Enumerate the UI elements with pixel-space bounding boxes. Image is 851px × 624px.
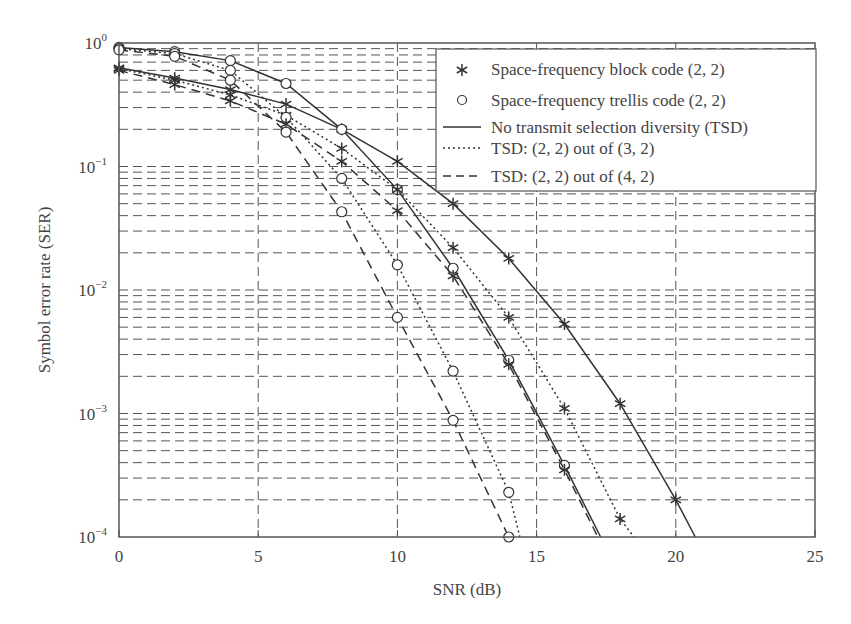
circle-marker-icon: [225, 56, 235, 66]
legend-label: TSD: (2, 2) out of (3, 2): [491, 139, 654, 158]
legend-label: Space-frequency block code (2, 2): [491, 60, 725, 79]
y-tick-label: 10−2: [78, 278, 107, 300]
circle-marker-icon: [448, 415, 458, 425]
legend-label: Space-frequency trellis code (2, 2): [491, 91, 726, 110]
y-axis-label: Symbol error rate (SER): [35, 207, 54, 374]
x-tick-label: 20: [667, 547, 684, 566]
circle-marker-icon: [392, 312, 402, 322]
x-axis-label: SNR (dB): [433, 580, 501, 599]
x-tick-label: 15: [528, 547, 545, 566]
circle-marker-icon: [337, 124, 347, 134]
legend-label: No transmit selection diversity (TSD): [491, 118, 748, 137]
legend-item-sftc: Space-frequency trellis code (2, 2): [458, 91, 726, 110]
circle-marker-icon: [337, 173, 347, 183]
ser-vs-snr-chart: 0510152025 10010−110−210−310−4 SNR (dB) …: [0, 0, 851, 624]
y-axis-ticks: 10010−110−210−310−4: [78, 31, 107, 547]
circle-marker-icon: [225, 65, 235, 75]
x-axis-ticks: 0510152025: [115, 530, 824, 566]
circle-marker-icon: [504, 487, 514, 497]
x-tick-label: 25: [807, 547, 824, 566]
circle-marker-icon: [281, 78, 291, 88]
x-tick-label: 5: [254, 547, 263, 566]
circle-marker-icon: [225, 75, 235, 85]
y-tick-label: 10−1: [78, 155, 107, 177]
y-tick-label: 10−3: [78, 402, 107, 424]
legend-item-sfbc: Space-frequency block code (2, 2): [457, 60, 725, 79]
legend-label: TSD: (2, 2) out of (4, 2): [491, 167, 654, 186]
circle-marker-icon: [337, 207, 347, 217]
legend: Space-frequency block code (2, 2) Space-…: [436, 49, 816, 191]
circle-marker-icon: [448, 366, 458, 376]
x-tick-label: 0: [115, 547, 124, 566]
y-tick-label: 10−4: [78, 525, 107, 547]
circle-marker-icon: [281, 127, 291, 137]
circle-marker-icon: [170, 51, 180, 61]
y-tick-label: 100: [85, 31, 108, 53]
circle-marker-icon: [392, 260, 402, 270]
x-tick-label: 10: [389, 547, 406, 566]
circle-marker-icon: [458, 96, 467, 105]
